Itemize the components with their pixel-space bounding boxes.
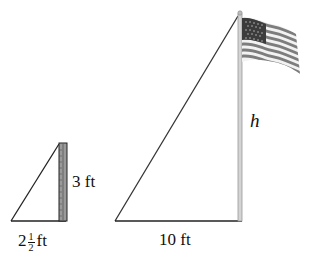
flagpole-height-label: h (250, 110, 260, 132)
small-triangle (11, 144, 66, 221)
small-shadow-unit: ft (37, 231, 47, 250)
yardstick-icon (59, 143, 67, 221)
similar-triangles-diagram: 3 ft 212ft h 10 ft (0, 0, 314, 270)
small-shadow-whole: 2 (18, 231, 27, 250)
diagram-graphics (0, 0, 314, 270)
flagpole-icon (238, 11, 242, 221)
large-shadow-label: 10 ft (159, 230, 191, 250)
american-flag-icon (240, 14, 304, 78)
small-height-label: 3 ft (72, 172, 95, 192)
fraction-denominator: 2 (28, 243, 35, 253)
small-shadow-fraction: 12 (28, 232, 35, 253)
fraction-numerator: 1 (28, 232, 35, 243)
large-triangle (115, 16, 242, 221)
small-shadow-label: 212ft (18, 231, 47, 253)
